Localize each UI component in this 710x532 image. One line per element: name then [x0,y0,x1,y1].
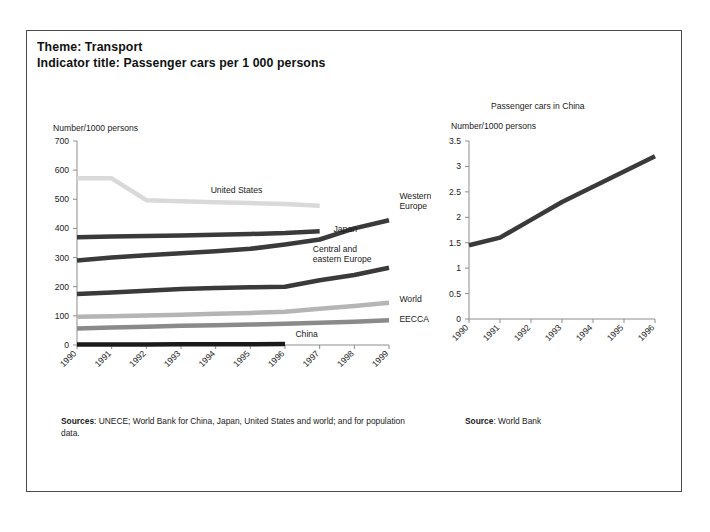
series-line-eecca [77,320,389,328]
source-note-right-label: Source [465,416,493,426]
series-label-western-europe: Western [399,191,431,201]
china-chart-y-axis-caption: Number/1000 persons [451,121,536,131]
source-note-left-text: : UNECE; World Bank for China, Japan, Un… [61,416,405,438]
y-tick-label: 500 [55,194,70,204]
series-label-japan: Japan [334,224,358,234]
x-tick-label: 1993 [162,348,183,369]
series-label-central-and-eastern-europe: eastern Europe [313,254,372,264]
main-line-chart: Number/1000 persons 01002003004005006007… [31,123,431,423]
x-tick-label: 1996 [636,322,657,343]
source-note-left: Sources: UNECE; World Bank for China, Ja… [61,415,411,439]
china-chart-title: Passenger cars in China [491,101,585,111]
x-tick-label: 1990 [450,322,471,343]
series-label-world: World [399,294,422,304]
series-line-world [77,303,389,317]
series-label-united-states: United States [211,185,263,195]
y-tick-label: 3 [456,161,461,171]
series-label-western-europe: Europe [399,201,427,211]
x-tick-label: 1999 [370,348,391,369]
y-tick-label: 600 [55,165,70,175]
series-line-china [77,344,285,345]
x-tick-label: 1998 [335,348,356,369]
x-tick-label: 1995 [231,348,252,369]
y-tick-label: 3.5 [449,136,461,146]
series-label-china: China [295,329,318,339]
x-tick-label: 1994 [196,348,217,369]
x-tick-label: 1993 [543,322,564,343]
series-line-central-and-eastern-europe [77,268,389,294]
x-tick-label: 1991 [481,322,502,343]
y-tick-label: 300 [55,253,70,263]
figure-header: Theme: Transport Indicator title: Passen… [37,39,597,71]
x-tick-label: 1997 [300,348,321,369]
indicator-title-line: Indicator title: Passenger cars per 1 00… [37,55,597,71]
y-tick-label: 2.5 [449,187,461,197]
x-tick-label: 1991 [92,348,113,369]
series-line-united-states [77,178,320,205]
y-tick-label: 400 [55,223,70,233]
series-label-central-and-eastern-europe: Central and [313,244,358,254]
y-tick-label: 700 [55,136,70,146]
series-line-china [469,156,655,245]
china-chart-plot: 00.511.522.533.5199019911992199319941995… [431,101,681,391]
x-tick-label: 1995 [605,322,626,343]
main-chart-y-axis-caption: Number/1000 persons [53,123,138,133]
y-tick-label: 0 [64,340,69,350]
theme-line: Theme: Transport [37,39,597,55]
series-label-eecca: EECCA [399,314,429,324]
source-note-left-label: Sources [61,416,94,426]
x-tick-label: 1992 [512,322,533,343]
x-tick-label: 1992 [127,348,148,369]
x-tick-label: 1994 [574,322,595,343]
y-tick-label: 100 [55,311,70,321]
figure-frame: Theme: Transport Indicator title: Passen… [26,30,682,492]
x-tick-label: 1996 [266,348,287,369]
y-tick-label: 2 [456,212,461,222]
screenshot-page: Theme: Transport Indicator title: Passen… [0,0,710,532]
source-note-right-text: : World Bank [493,416,541,426]
series-line-japan [77,231,320,237]
y-tick-label: 1 [456,263,461,273]
y-tick-label: 0 [456,314,461,324]
y-tick-label: 200 [55,282,70,292]
y-tick-label: 0.5 [449,289,461,299]
china-line-chart: Passenger cars in China Number/1000 pers… [431,101,681,421]
main-chart-plot: 0100200300400500600700199019911992199319… [31,123,431,413]
source-note-right: Source: World Bank [465,415,665,427]
y-tick-label: 1.5 [449,238,461,248]
x-tick-label: 1990 [58,348,79,369]
